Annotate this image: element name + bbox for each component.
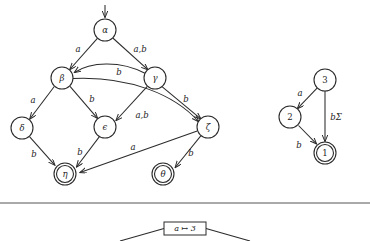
edge-label-zeta-eta: a xyxy=(130,142,135,152)
edge-label-alpha-beta: a xyxy=(75,44,80,54)
edge-label-alpha-gamma: a,b xyxy=(133,44,146,54)
state-label-delta: δ xyxy=(19,123,24,133)
tree-branch-left xyxy=(120,229,164,241)
edge-gamma-zeta xyxy=(162,87,201,119)
state-label-beta: β xyxy=(59,73,65,83)
edge-label-gamma-beta: b xyxy=(116,67,121,77)
state-label-alpha: α xyxy=(102,25,108,35)
state-label-theta: θ xyxy=(160,169,165,179)
edge-label-3-1: bΣ xyxy=(330,112,342,122)
edge-label-gamma-zeta: b xyxy=(183,94,188,104)
state-label-2: 2 xyxy=(287,112,292,122)
edge-label-epsilon-eta: b xyxy=(77,147,82,157)
automaton-left: α β γ δ ϵ ζ η θ a a,b b a b a,b b xyxy=(11,5,219,185)
edge-label-2-1: b xyxy=(296,140,301,150)
edge-gamma-beta xyxy=(75,64,146,74)
edge-label-beta-epsilon: b xyxy=(89,94,94,104)
edge-label-gamma-epsilon: a,b xyxy=(135,110,148,120)
tree-root-label: a ↦ 3 xyxy=(174,224,196,233)
state-label-1: 1 xyxy=(322,148,327,158)
edge-label-beta-delta: a xyxy=(30,95,35,105)
edge-label-delta-eta: b xyxy=(31,149,36,159)
edge-label-3-2: a xyxy=(297,88,302,98)
automaton-right: 3 2 1 a bΣ b xyxy=(279,69,343,164)
tree-fragment: a ↦ 3 xyxy=(120,222,250,241)
state-label-epsilon: ϵ xyxy=(103,122,108,132)
tree-branch-right xyxy=(206,229,250,241)
edge-zeta-eta xyxy=(80,131,197,173)
edge-label-zeta-theta: b xyxy=(188,148,193,158)
figure-canvas: α β γ δ ϵ ζ η θ a a,b b a b a,b b xyxy=(0,0,370,241)
state-label-3: 3 xyxy=(322,75,327,85)
